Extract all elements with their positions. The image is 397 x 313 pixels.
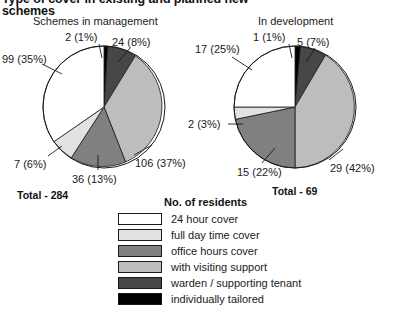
pie-right-label-with-visiting-support: 29 (42%) bbox=[330, 162, 375, 174]
legend-swatch-24-hour-cover bbox=[118, 213, 162, 225]
legend-heading: No. of residents bbox=[164, 196, 380, 208]
chart-legend: No. of residents 24 hour cover full day … bbox=[118, 196, 380, 307]
pie-right-label-individually-tailored: 1 (1%) bbox=[253, 31, 285, 43]
pie-left-label-24-hour-cover: 99 (35%) bbox=[2, 53, 47, 65]
legend-item-24-hour-cover: 24 hour cover bbox=[118, 211, 380, 227]
slice-24-hour-cover bbox=[234, 46, 295, 107]
pie-left-label-office-hours-cover: 36 (13%) bbox=[72, 173, 117, 185]
figure-title: Type of cover in existing and planned ne… bbox=[0, 0, 397, 12]
legend-label-with-visiting-support: with visiting support bbox=[171, 261, 267, 273]
legend-item-individually-tailored: individually tailored bbox=[118, 291, 380, 307]
legend-label-individually-tailored: individually tailored bbox=[171, 293, 264, 305]
pie-chart-in-development bbox=[232, 44, 358, 170]
pie-left-label-full-day-time-cover: 7 (6%) bbox=[14, 158, 46, 170]
legend-label-full-day-time-cover: full day time cover bbox=[171, 229, 260, 241]
pie-right-label-24-hour-cover: 17 (25%) bbox=[195, 43, 240, 55]
legend-label-24-hour-cover: 24 hour cover bbox=[171, 213, 238, 225]
legend-item-office-hours-cover: office hours cover bbox=[118, 243, 380, 259]
pie-left-svg bbox=[41, 44, 167, 170]
pie-left-label-with-visiting-support: 106 (37%) bbox=[135, 157, 186, 169]
legend-swatch-office-hours-cover bbox=[118, 245, 162, 257]
legend-swatch-with-visiting-support bbox=[118, 261, 162, 273]
pie-right-svg bbox=[232, 44, 358, 170]
legend-label-warden-supporting-tenant: warden / supporting tenant bbox=[171, 277, 301, 289]
pie-left-label-individually-tailored: 2 (1%) bbox=[65, 31, 97, 43]
chart-subtitle-in-development: In development bbox=[258, 15, 333, 27]
legend-item-warden-supporting-tenant: warden / supporting tenant bbox=[118, 275, 380, 291]
legend-swatch-warden-supporting-tenant bbox=[118, 277, 162, 289]
pie-left-label-warden-supporting-tenant: 24 (8%) bbox=[112, 36, 151, 48]
pie-right-label-office-hours-cover: 15 (22%) bbox=[237, 166, 282, 178]
legend-swatch-full-day-time-cover bbox=[118, 229, 162, 241]
legend-item-with-visiting-support: with visiting support bbox=[118, 259, 380, 275]
chart-subtitle-schemes-in-management: Schemes in management bbox=[33, 15, 158, 27]
pie-chart-schemes-in-management bbox=[41, 44, 167, 170]
legend-label-office-hours-cover: office hours cover bbox=[171, 245, 258, 257]
legend-swatch-individually-tailored bbox=[118, 293, 162, 305]
chart-total-schemes-in-management: Total - 284 bbox=[17, 189, 68, 201]
legend-item-full-day-time-cover: full day time cover bbox=[118, 227, 380, 243]
pie-right-label-full-day-time-cover: 2 (3%) bbox=[188, 118, 220, 130]
pie-right-label-warden-supporting-tenant: 5 (7%) bbox=[297, 36, 329, 48]
